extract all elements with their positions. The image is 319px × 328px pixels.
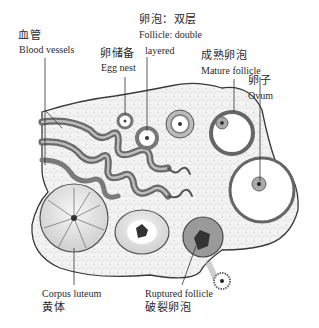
label-ovum-zh: 卵子	[248, 75, 271, 87]
ovum-follicle	[230, 158, 294, 222]
luteal-body-regressing	[115, 210, 169, 254]
label-egg-nest-zh: 卵储备	[100, 48, 135, 60]
corpus-luteum	[40, 184, 108, 252]
label-corpus-luteum-zh: 黄体	[42, 302, 65, 314]
label-blood-vessels-zh: 血管	[18, 30, 41, 42]
mature-follicle	[211, 112, 253, 154]
label-mature-follicle-zh: 成熟卵泡	[201, 50, 247, 62]
label-blood-vessels-en: Blood vessels	[19, 44, 74, 56]
egg-nest-follicle	[118, 114, 132, 128]
label-egg-nest-en: Egg nest	[101, 62, 136, 74]
growing-follicle	[166, 110, 194, 138]
label-corpus-luteum-en: Corpus luteum	[42, 288, 101, 300]
label-follicle-zh: 卵泡：双层	[139, 14, 197, 26]
released-ovum	[214, 273, 230, 289]
label-ruptured-follicle-en: Ruptured follicle	[145, 288, 213, 300]
label-follicle-en-2: layered	[145, 45, 174, 57]
label-ruptured-follicle-zh: 破裂卵泡	[145, 302, 191, 314]
label-follicle-en-1: Follicle: double	[139, 29, 202, 41]
label-ovum-en: Ovum	[248, 90, 273, 102]
